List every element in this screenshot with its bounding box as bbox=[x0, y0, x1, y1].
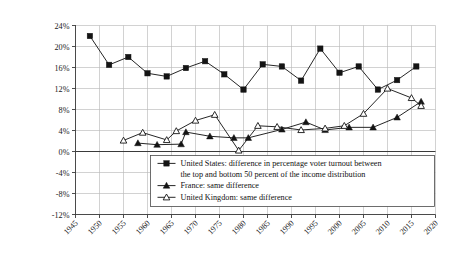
data-point-marker bbox=[318, 46, 323, 51]
y-tick-label: 12% bbox=[54, 85, 69, 94]
data-point-marker bbox=[145, 71, 150, 76]
data-point-marker bbox=[394, 77, 399, 82]
data-point-marker bbox=[106, 62, 111, 67]
legend-entry-text: France: same difference bbox=[181, 181, 260, 190]
data-point-marker bbox=[414, 64, 419, 69]
legend-entry-text: the top and bottom 50 percent of the inc… bbox=[181, 170, 366, 179]
data-point-marker bbox=[260, 62, 265, 67]
y-tick-label: -12% bbox=[52, 211, 70, 220]
y-tick-label: -4% bbox=[56, 169, 70, 178]
data-point-marker bbox=[126, 54, 131, 59]
legend-entry-text: United Kingdom: same difference bbox=[181, 193, 293, 202]
data-point-marker bbox=[298, 78, 303, 83]
chart-canvas: 24%20%16%12%8%4%0%-4%-8%-12% 19451950195… bbox=[0, 0, 449, 263]
data-point-marker bbox=[87, 33, 92, 38]
y-tick-label: -8% bbox=[56, 190, 70, 199]
y-tick-label: 8% bbox=[59, 106, 70, 115]
data-point-marker bbox=[337, 70, 342, 75]
y-tick-label: 16% bbox=[54, 64, 69, 73]
data-point-marker bbox=[279, 64, 284, 69]
data-point-marker bbox=[202, 59, 207, 64]
y-tick-label: 4% bbox=[59, 127, 70, 136]
data-point-marker bbox=[164, 74, 169, 79]
y-tick-label: 0% bbox=[59, 148, 70, 157]
voter-turnout-chart: 24%20%16%12%8%4%0%-4%-8%-12% 19451950195… bbox=[0, 0, 449, 263]
legend-marker-filled-square bbox=[164, 161, 169, 166]
data-point-marker bbox=[241, 87, 246, 92]
y-tick-label: 20% bbox=[54, 43, 69, 52]
y-tick-label: 24% bbox=[54, 22, 69, 31]
chart-legend[interactable]: United States: difference in percentage … bbox=[151, 156, 435, 207]
data-point-marker bbox=[183, 65, 188, 70]
legend-entry-text: United States: difference in percentage … bbox=[181, 159, 382, 168]
data-point-marker bbox=[356, 64, 361, 69]
data-point-marker bbox=[375, 87, 380, 92]
data-point-marker bbox=[222, 72, 227, 77]
